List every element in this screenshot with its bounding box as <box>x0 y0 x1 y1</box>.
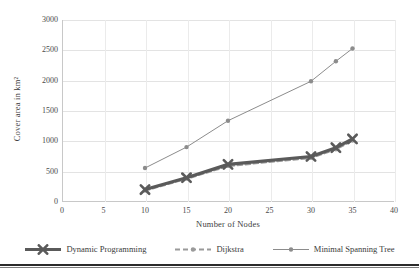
legend-item-minimal-spanning-tree[interactable]: Minimal Spanning Tree <box>272 244 395 255</box>
legend-item-dijkstra[interactable]: Dijkstra <box>174 244 243 255</box>
page-rule-thin <box>0 267 419 268</box>
y-tick-label: 3000 <box>32 15 58 24</box>
x-tick-label: 0 <box>50 206 74 215</box>
y-tick-label: 2000 <box>32 76 58 85</box>
x-tick-label: 5 <box>92 206 116 215</box>
data-point-marker <box>143 166 147 170</box>
data-point-marker <box>226 119 230 123</box>
page-rule-thick <box>0 264 419 266</box>
data-point-marker <box>289 247 293 251</box>
x-tick-label: 35 <box>341 206 365 215</box>
legend-marker-icon <box>24 244 62 255</box>
legend-item-dynamic-programming[interactable]: Dynamic Programming <box>24 244 146 255</box>
x-tick-label: 15 <box>175 206 199 215</box>
data-point-marker <box>334 59 338 63</box>
legend-label: Minimal Spanning Tree <box>314 244 395 254</box>
x-axis-title: Number of Nodes <box>62 219 394 229</box>
data-point-marker <box>184 145 188 149</box>
data-point-marker <box>350 46 354 50</box>
x-tick-label: 30 <box>299 206 323 215</box>
legend-marker-icon <box>272 244 310 255</box>
y-tick-label: 1000 <box>32 136 58 145</box>
x-tick-label: 20 <box>216 206 240 215</box>
y-tick-label: 2500 <box>32 45 58 54</box>
data-point-marker <box>191 247 195 251</box>
y-tick-label: 0 <box>32 197 58 206</box>
x-tick-label: 10 <box>133 206 157 215</box>
chart-figure: Cover area in km² 0500100015002000250030… <box>0 0 419 277</box>
legend-label: Dynamic Programming <box>66 244 146 254</box>
chart-legend: Dynamic ProgrammingDijkstraMinimal Spann… <box>0 240 419 258</box>
data-point-marker <box>309 79 313 83</box>
gridline-vertical <box>395 20 396 202</box>
y-axis-title: Cover area in km² <box>12 61 22 157</box>
y-tick-label: 1500 <box>32 106 58 115</box>
x-tick-label: 25 <box>258 206 282 215</box>
series-dijkstra <box>143 139 354 193</box>
legend-label: Dijkstra <box>216 244 243 254</box>
legend-marker-icon <box>174 244 212 255</box>
chart-plot <box>62 20 394 202</box>
x-tick-label: 40 <box>382 206 406 215</box>
y-tick-label: 500 <box>32 167 58 176</box>
